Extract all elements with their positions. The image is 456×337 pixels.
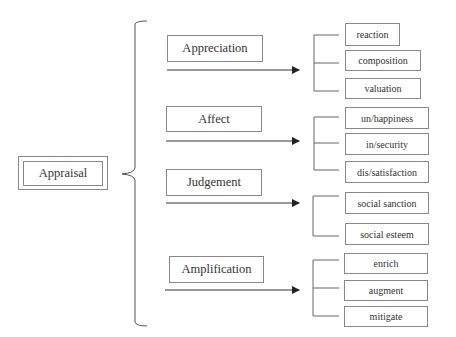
- category-amplification: Amplification: [169, 256, 264, 283]
- bracket-affect: [314, 117, 339, 170]
- leaf-in-security: in/security: [345, 133, 429, 155]
- leaf-label: composition: [358, 55, 407, 66]
- bracket-appreciation: [314, 35, 339, 91]
- leaf-label: social esteem: [360, 229, 414, 240]
- bracket-amplification: [313, 260, 339, 316]
- category-affect: Affect: [166, 106, 262, 132]
- leaf-dis-satisfaction: dis/satisfaction: [345, 161, 429, 183]
- category-label: Amplification: [181, 262, 251, 277]
- root-node-appraisal: Appraisal: [23, 161, 103, 186]
- leaf-label: enrich: [374, 258, 399, 269]
- leaf-label: reaction: [356, 29, 388, 40]
- leaf-label: un/happiness: [361, 113, 413, 124]
- leaf-label: in/security: [366, 139, 408, 150]
- leaf-label: social sanction: [357, 198, 416, 209]
- leaf-social-sanction: social sanction: [345, 192, 429, 214]
- leaf-label: valuation: [364, 83, 401, 94]
- category-appreciation: Appreciation: [167, 35, 263, 62]
- leaf-social-esteem: social esteem: [345, 223, 429, 245]
- category-label: Judgement: [187, 175, 241, 190]
- root-label: Appraisal: [39, 166, 88, 181]
- leaf-valuation: valuation: [345, 78, 421, 99]
- category-label: Affect: [198, 112, 230, 127]
- leaf-reaction: reaction: [345, 23, 400, 46]
- leaf-un-happiness: un/happiness: [345, 107, 429, 129]
- leaf-mitigate: mitigate: [344, 306, 428, 327]
- category-label: Appreciation: [182, 41, 247, 56]
- curly-brace: [122, 21, 147, 326]
- leaf-enrich: enrich: [344, 253, 428, 274]
- leaf-composition: composition: [345, 50, 421, 71]
- bracket-judgement: [313, 196, 339, 236]
- leaf-augment: augment: [344, 280, 428, 301]
- sub-brackets: [313, 35, 339, 316]
- leaf-label: mitigate: [370, 311, 403, 322]
- leaf-label: augment: [369, 285, 403, 296]
- leaf-label: dis/satisfaction: [357, 167, 417, 178]
- category-judgement: Judgement: [166, 169, 262, 196]
